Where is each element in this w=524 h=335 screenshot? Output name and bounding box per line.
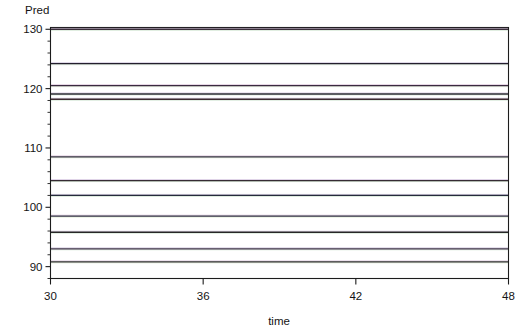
y-tick-label: 90: [30, 261, 43, 273]
series-line-group: [51, 261, 508, 263]
y-tick-label: 110: [24, 142, 42, 154]
x-axis-title: time: [268, 315, 290, 327]
series-line-group: [51, 194, 508, 196]
x-tick-label: 42: [349, 290, 362, 302]
series-line-group: [51, 93, 508, 95]
y-tick-label: 120: [23, 83, 42, 95]
prediction-line-chart: Pred 90100110120130 30364248 time: [0, 0, 524, 335]
series-line-group: [51, 98, 508, 100]
y-axis-minor-ticks: [48, 41, 51, 278]
series-line-group: [51, 28, 508, 30]
series-line-group: [51, 63, 508, 65]
series-line-group: [51, 180, 508, 182]
series-line-group: [51, 248, 508, 250]
series-line-group: [51, 85, 508, 87]
series-line-group: [51, 215, 508, 217]
series-line-group: [51, 231, 508, 233]
x-tick-label: 36: [197, 290, 210, 302]
chart-background: [0, 0, 524, 335]
y-tick-label: 130: [23, 23, 42, 35]
y-axis-title: Pred: [25, 4, 49, 16]
x-tick-label: 30: [44, 290, 57, 302]
x-tick-label: 48: [502, 290, 515, 302]
chart-container: Pred 90100110120130 30364248 time: [0, 0, 524, 335]
series-line-group: [51, 156, 508, 158]
y-tick-label: 100: [23, 201, 42, 213]
